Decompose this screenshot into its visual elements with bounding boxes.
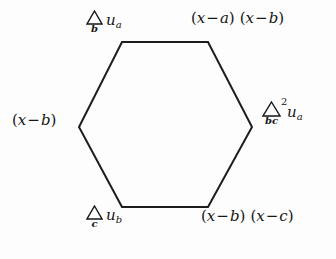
- figure-canvas: b ua (x−a)(x−b) (x−b) 2 bc ua: [0, 0, 336, 259]
- operand-subscript: b: [116, 214, 123, 225]
- operand-subscript: a: [116, 19, 122, 30]
- variable-x-2: x: [246, 9, 254, 27]
- close-paren-1: ): [240, 207, 246, 225]
- term-c: c: [279, 207, 287, 225]
- delta-subscript: c: [91, 219, 97, 229]
- delta-operator-icon: c: [86, 205, 103, 220]
- delta-superscript: 2: [281, 97, 287, 107]
- delta-operator-icon: b: [86, 10, 103, 25]
- minus-sign: −: [26, 111, 41, 129]
- variable-x-2: x: [256, 207, 264, 225]
- operand-symbol: u: [106, 11, 116, 29]
- operand-subscript: a: [297, 111, 303, 122]
- operand-symbol: u: [287, 103, 297, 121]
- term-b: b: [41, 111, 51, 129]
- label-delta-b-u-a: b ua: [86, 10, 122, 30]
- label-delta-c-u-b: c ub: [86, 205, 122, 225]
- minus-sign-1: −: [205, 9, 220, 27]
- close-paren-2: ): [288, 207, 294, 225]
- minus-sign-2: −: [265, 207, 280, 225]
- delta-operator-icon: 2 bc: [262, 101, 281, 117]
- close-paren-1: ): [229, 9, 235, 27]
- delta-subscript: b: [91, 24, 98, 34]
- minus-sign-2: −: [254, 9, 269, 27]
- hexagon-outline: [79, 42, 252, 207]
- label-x-minus-b: (x−b): [12, 113, 56, 128]
- close-paren: ): [51, 111, 57, 129]
- term-b: b: [269, 9, 279, 27]
- label-x-minus-a-x-minus-b: (x−a)(x−b): [191, 11, 284, 26]
- delta-subscript: bc: [265, 116, 278, 126]
- label-x-minus-b-x-minus-c: (x−b)(x−c): [201, 209, 294, 224]
- term-b: b: [230, 207, 240, 225]
- operand-symbol: u: [106, 206, 116, 224]
- label-delta-2-bc-u-a: 2 bc ua: [262, 101, 303, 122]
- term-a: a: [220, 9, 229, 27]
- close-paren-2: ): [278, 9, 284, 27]
- minus-sign-1: −: [215, 207, 230, 225]
